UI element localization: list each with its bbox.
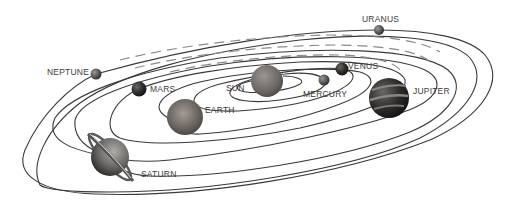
label-venus: VENUS bbox=[348, 62, 378, 71]
label-jupiter: JUPITER bbox=[413, 87, 450, 96]
label-earth: EARTH bbox=[205, 106, 235, 115]
neptune bbox=[91, 69, 102, 80]
label-uranus: URANUS bbox=[362, 15, 399, 24]
label-saturn: SATURN bbox=[141, 170, 177, 179]
mercury bbox=[319, 75, 330, 86]
orbit-neptune bbox=[23, 30, 493, 194]
orbits bbox=[23, 30, 493, 194]
earth bbox=[167, 99, 203, 135]
sun bbox=[251, 65, 283, 97]
label-sun: SUN bbox=[226, 84, 245, 93]
label-neptune: NEPTUNE bbox=[47, 68, 89, 77]
label-mercury: MERCURY bbox=[303, 90, 347, 99]
label-mars: MARS bbox=[150, 85, 175, 94]
mars bbox=[132, 82, 147, 97]
uranus bbox=[374, 25, 384, 35]
solar-system-diagram bbox=[0, 0, 508, 206]
jupiter bbox=[369, 78, 409, 118]
venus bbox=[336, 63, 349, 76]
